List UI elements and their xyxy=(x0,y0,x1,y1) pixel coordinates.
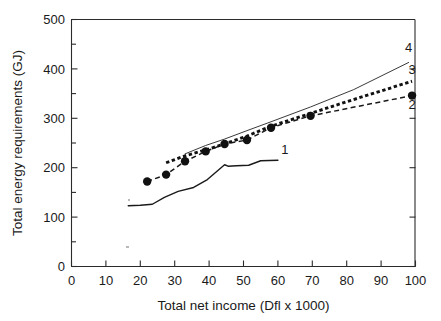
x-tick-label-50: 50 xyxy=(236,273,250,288)
x-tick-label-30: 30 xyxy=(167,273,181,288)
data-point-marker xyxy=(181,157,189,165)
axes-frame xyxy=(71,19,416,267)
y-tick-label-100: 100 xyxy=(43,210,65,225)
x-tick-label-70: 70 xyxy=(305,273,319,288)
x-tick-label-10: 10 xyxy=(99,273,113,288)
data-point-marker xyxy=(162,170,170,178)
x-tick-label-0: 0 xyxy=(68,273,75,288)
series-label-1: 1 xyxy=(281,142,288,157)
x-tick-labels: 0 10 20 30 40 50 60 70 80 90 100 xyxy=(68,273,426,288)
scan-speck xyxy=(126,246,129,248)
y-tick-label-400: 400 xyxy=(43,62,65,77)
series-label-2: 2 xyxy=(408,97,415,112)
x-axis-major-ticks xyxy=(72,261,416,267)
x-tick-label-20: 20 xyxy=(133,273,147,288)
series-label-3: 3 xyxy=(408,62,415,77)
x-tick-label-90: 90 xyxy=(374,273,388,288)
chart-figure: 0 100 200 300 400 500 0 10 20 30 40 50 6… xyxy=(0,0,441,321)
x-tick-label-40: 40 xyxy=(202,273,216,288)
chart-svg: 0 100 200 300 400 500 0 10 20 30 40 50 6… xyxy=(0,0,441,321)
series-line-2 xyxy=(147,96,412,182)
y-tick-label-500: 500 xyxy=(43,12,65,27)
y-tick-label-300: 300 xyxy=(43,111,65,126)
y-tick-label-0: 0 xyxy=(58,259,65,274)
x-tick-label-60: 60 xyxy=(271,273,285,288)
x-tick-label-80: 80 xyxy=(339,273,353,288)
y-tick-label-200: 200 xyxy=(43,160,65,175)
x-tick-label-100: 100 xyxy=(405,273,427,288)
data-curves xyxy=(128,62,416,205)
y-tick-labels: 0 100 200 300 400 500 xyxy=(43,12,65,274)
scan-speck xyxy=(128,199,130,201)
series-label-4: 4 xyxy=(405,40,412,55)
series-line-4 xyxy=(185,62,409,153)
y-axis-minor-ticks xyxy=(72,44,77,242)
data-point-marker xyxy=(143,177,151,185)
x-axis-title: Total net income (Dfl x 1000) xyxy=(158,298,330,313)
y-axis-title: Total energy requirements (GJ) xyxy=(10,50,25,236)
